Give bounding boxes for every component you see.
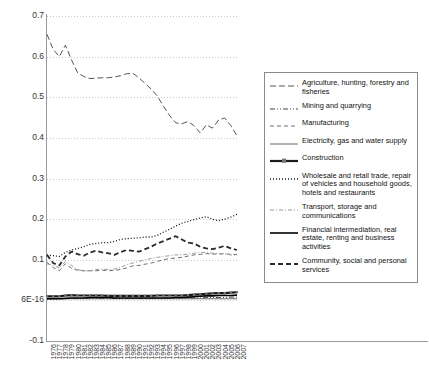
series-marker (113, 295, 115, 297)
series-marker (218, 292, 220, 294)
series-marker (52, 295, 54, 297)
series-marker (119, 295, 121, 297)
series-marker (132, 295, 134, 297)
chart-container: 0.70.60.50.40.30.20.16E-16-0.1 197619771… (0, 0, 429, 367)
series-marker (230, 292, 232, 294)
legend-label: Electricity, gas and water supply (302, 137, 413, 146)
y-tick-label: 0.5 (32, 92, 44, 101)
series-marker (77, 294, 79, 296)
legend-item[interactable]: Community, social and personal services (269, 257, 413, 274)
series-marker (95, 294, 97, 296)
y-tick-label: 0.6 (32, 52, 44, 61)
chart-legend: Agriculture, hunting, forestry and fishe… (264, 72, 418, 283)
series-marker (101, 294, 103, 296)
legend-item[interactable]: Electricity, gas and water supply (269, 137, 413, 149)
legend-line-swatch (269, 104, 299, 114)
series-marker (156, 294, 158, 296)
legend-line-swatch (269, 228, 299, 238)
series-marker (70, 294, 72, 296)
series-marker (236, 291, 238, 293)
series-marker (46, 295, 48, 297)
series-line (47, 34, 237, 136)
y-tick-label: 0.1 (32, 255, 44, 264)
series-marker (187, 294, 189, 296)
legend-line-swatch (269, 156, 299, 166)
series-marker (224, 292, 226, 294)
y-tick-label: 0.3 (32, 174, 44, 183)
series-marker (162, 294, 164, 296)
legend-label: Construction (302, 154, 413, 163)
series-marker (89, 294, 91, 296)
series-lines (47, 16, 237, 341)
legend-line-swatch (269, 174, 299, 184)
series-marker (107, 295, 109, 297)
series-marker (144, 295, 146, 297)
series-marker (199, 293, 201, 295)
legend-line-swatch (269, 81, 299, 91)
legend-item[interactable]: Mining and quarrying (269, 102, 413, 114)
series-marker (205, 293, 207, 295)
legend-label: Mining and quarrying (302, 102, 413, 111)
plot-area (47, 16, 237, 341)
legend-item[interactable]: Construction (269, 154, 413, 166)
legend-label: Manufacturing (302, 119, 413, 128)
legend-label: Community, social and personal services (302, 257, 413, 274)
series-marker (150, 295, 152, 297)
series-marker (58, 295, 60, 297)
legend-line-swatch (269, 205, 299, 215)
bottom-caption (18, 356, 278, 366)
legend-label: Agriculture, hunting, forestry and fishe… (302, 79, 413, 96)
series-marker (64, 294, 66, 296)
series-marker (138, 295, 140, 297)
legend-item[interactable]: Manufacturing (269, 119, 413, 131)
legend-line-swatch (269, 259, 299, 269)
x-axis-line (46, 341, 428, 342)
legend-line-swatch (269, 139, 299, 149)
legend-label: Transport, storage and communications (302, 203, 413, 220)
y-axis-labels: 0.70.60.50.40.30.20.16E-16-0.1 (0, 0, 44, 367)
series-marker (168, 294, 170, 296)
series-line (47, 252, 237, 271)
legend-item[interactable]: Wholesale and retail trade, repair of ve… (269, 172, 413, 198)
y-tick-label: -0.1 (29, 336, 44, 345)
legend-label: Financial intermediation, real estate, r… (302, 226, 413, 252)
series-marker (211, 292, 213, 294)
series-marker (126, 295, 128, 297)
y-tick-label: 0.4 (32, 133, 44, 142)
series-marker (83, 294, 85, 296)
y-tick-label: 0.2 (32, 214, 44, 223)
legend-item[interactable]: Transport, storage and communications (269, 203, 413, 220)
legend-label: Wholesale and retail trade, repair of ve… (302, 172, 413, 198)
series-marker (181, 294, 183, 296)
y-tick-label: 6E-16 (21, 295, 44, 304)
y-tick-label: 0.7 (32, 11, 44, 20)
series-marker (175, 294, 177, 296)
series-line (47, 214, 237, 256)
legend-item[interactable]: Financial intermediation, real estate, r… (269, 226, 413, 252)
series-marker (193, 294, 195, 296)
legend-item[interactable]: Agriculture, hunting, forestry and fishe… (269, 79, 413, 96)
legend-line-swatch (269, 121, 299, 131)
